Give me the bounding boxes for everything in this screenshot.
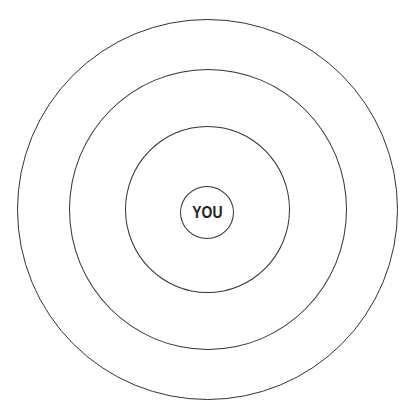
center-ring: YOU: [180, 186, 234, 239]
concentric-diagram: YOU: [0, 0, 406, 415]
center-label: YOU: [192, 203, 222, 223]
